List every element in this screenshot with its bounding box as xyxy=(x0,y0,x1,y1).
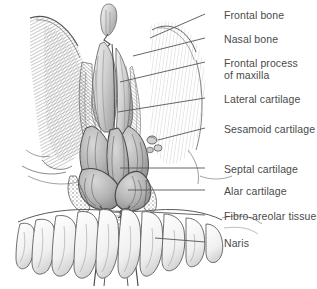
label-text: Sesamoid cartilage xyxy=(224,123,315,135)
label-lateral-cartilage: Lateral cartilage xyxy=(224,93,300,105)
label-septal-cartilage: Septal cartilage xyxy=(224,163,298,175)
label-naris: Naris xyxy=(224,237,249,249)
label-frontal-process-maxilla: Frontal processof maxilla xyxy=(224,57,298,81)
anatomy-figure: Frontal boneNasal boneFrontal processof … xyxy=(0,0,317,289)
label-sesamoid-cartilage: Sesamoid cartilage xyxy=(224,123,315,135)
label-layer: Frontal boneNasal boneFrontal processof … xyxy=(0,0,317,289)
label-text: Alar cartilage xyxy=(224,185,287,197)
label-text: Naris xyxy=(224,237,249,249)
label-fibro-areolar-tissue: Fibro-areolar tissue xyxy=(224,210,316,222)
label-text: Fibro-areolar tissue xyxy=(224,210,316,222)
label-text-line2: of maxilla xyxy=(224,69,298,81)
label-nasal-bone: Nasal bone xyxy=(224,33,278,45)
label-text: Nasal bone xyxy=(224,33,278,45)
label-text: Frontal bone xyxy=(224,9,284,21)
label-frontal-bone: Frontal bone xyxy=(224,9,284,21)
label-text: Septal cartilage xyxy=(224,163,298,175)
label-text: Lateral cartilage xyxy=(224,93,300,105)
label-text: Frontal process xyxy=(224,57,298,69)
label-alar-cartilage: Alar cartilage xyxy=(224,185,287,197)
